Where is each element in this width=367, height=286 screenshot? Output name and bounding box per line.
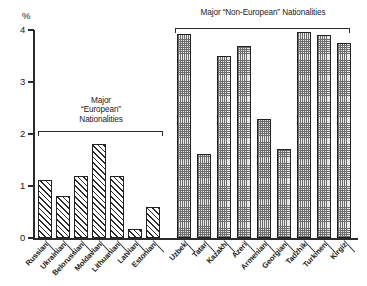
group-bracket-european xyxy=(38,131,163,136)
group-label-european-line1: Major xyxy=(58,96,144,105)
bar-kirgiz xyxy=(337,43,351,238)
category-label-kirgiz: Kirgiz xyxy=(329,241,349,261)
bar-tatar xyxy=(197,154,211,238)
bar-azeri xyxy=(237,46,251,238)
y-axis-tick-label-wrap: 1 xyxy=(8,181,25,191)
y-axis-tick-label: 0 xyxy=(8,233,25,243)
bar-moldavian xyxy=(92,144,106,238)
y-axis-tick-label: 2 xyxy=(8,129,25,139)
bar-turkmen xyxy=(317,35,331,238)
y-axis-tick-label-wrap: 0 xyxy=(8,233,25,243)
group-label-european: Major “European” Nationalities xyxy=(58,96,144,124)
bar-russian xyxy=(38,180,52,238)
bar-kazakh xyxy=(217,56,231,238)
group-label-non-european: Major “Non-European” Nationalities xyxy=(170,8,356,17)
group-label-european-line2: “European” xyxy=(58,105,144,114)
y-axis-tick-label: 1 xyxy=(8,181,25,191)
bar-estonian xyxy=(146,207,160,238)
y-axis-tick-label: 3 xyxy=(8,77,25,87)
bar-lithuanian xyxy=(110,176,124,238)
y-axis-tick-label-wrap: 2 xyxy=(8,129,25,139)
y-axis-tick-mark xyxy=(28,237,34,238)
x-axis-line xyxy=(33,238,358,240)
bar-chart: % 43210 RussianUkrainianBelorussianMolda… xyxy=(0,0,367,286)
y-axis-tick-mark xyxy=(28,81,34,82)
group-bracket-non-european xyxy=(175,28,350,33)
y-axis-tick-mark xyxy=(28,185,34,186)
y-axis-tick-label-wrap: 3 xyxy=(8,77,25,87)
y-axis-unit-label: % xyxy=(22,11,30,21)
bar-latvian xyxy=(128,229,142,238)
bar-belorussian xyxy=(74,176,88,238)
category-label-uzbek: Uzbek xyxy=(168,241,189,262)
bar-uzbek xyxy=(177,34,191,238)
bar-armenian xyxy=(257,119,271,238)
group-label-european-line3: Nationalities xyxy=(58,115,144,124)
y-axis-tick-label: 4 xyxy=(8,25,25,35)
bar-tadzhik xyxy=(297,32,311,238)
bar-georgian xyxy=(277,149,291,238)
bar-ukrainian xyxy=(56,196,70,238)
y-axis-tick-mark xyxy=(28,133,34,134)
y-axis-tick-mark xyxy=(28,29,34,30)
y-axis-tick-label-wrap: 4 xyxy=(8,25,25,35)
